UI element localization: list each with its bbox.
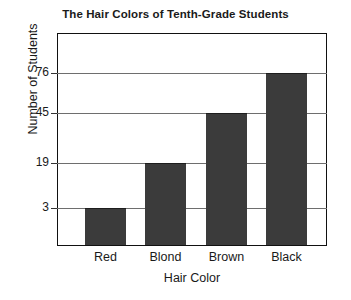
x-axis-tick-label: Black (242, 250, 332, 264)
y-axis-tick-label: 76 (36, 66, 49, 78)
y-axis-tick-label: 3 (42, 201, 49, 213)
y-axis-tick-label: 45 (36, 106, 49, 118)
bar-chart: The Hair Colors of Tenth-Grade Students … (0, 0, 351, 300)
bar-red (85, 208, 126, 245)
y-axis-title: Number of Students (26, 0, 40, 169)
y-axis-tick (51, 73, 57, 74)
y-axis-tick (51, 113, 57, 114)
bar-black (266, 73, 307, 245)
y-axis-tick-label: 19 (36, 156, 49, 168)
y-axis-tick (51, 163, 57, 164)
chart-title: The Hair Colors of Tenth-Grade Students (0, 8, 351, 20)
x-axis-title: Hair Color (57, 271, 327, 285)
bar-blond (145, 163, 186, 245)
bar-brown (206, 113, 247, 245)
y-axis-tick (51, 208, 57, 209)
